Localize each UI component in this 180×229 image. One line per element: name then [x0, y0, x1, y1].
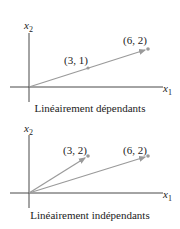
panel-dependent: x2 x1 (3, 1) (6, 2) Linéairement dépenda…: [10, 19, 172, 114]
caption-independent: Linéairement indépendants: [30, 209, 149, 221]
point-6-2: [146, 47, 150, 51]
point-label-6-2: (6, 2): [123, 34, 147, 47]
vector-6-2: [29, 157, 145, 193]
point-3-1: [86, 66, 89, 69]
x1-axis-label: x1: [162, 188, 172, 203]
x2-axis-label: x2: [23, 122, 33, 137]
caption-dependent: Linéairement dépendants: [35, 102, 146, 114]
x1-axis-label: x1: [162, 82, 172, 97]
vector-diagrams: x2 x1 (3, 1) (6, 2) Linéairement dépenda…: [0, 0, 180, 229]
point-label-3-1: (3, 1): [64, 54, 88, 67]
x2-axis-label: x2: [23, 19, 33, 34]
point-label-3-2: (3, 2): [63, 144, 87, 157]
panel-independent: x2 x1 (3, 2) (6, 2) Linéairement indépen…: [10, 122, 172, 221]
point-label-6-2: (6, 2): [123, 144, 147, 157]
vector-3-2: [29, 158, 85, 193]
